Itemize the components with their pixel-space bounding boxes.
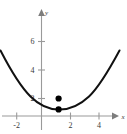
y-axis-label: y [44, 9, 49, 17]
x-tick-label-2: 2 [69, 121, 73, 130]
y-tick-label-4: 4 [31, 66, 35, 75]
x-tick-label-4: 4 [97, 121, 101, 130]
x-axis-label: x [120, 113, 125, 121]
y-tick-label-6: 6 [31, 37, 35, 46]
parabola-figure: -2 2 4 2 4 6 x y [0, 0, 127, 134]
data-point-upper [56, 95, 62, 101]
x-axis-arrow-icon [112, 113, 119, 120]
data-point-vertex [56, 106, 62, 112]
y-axis-arrow-icon [38, 9, 45, 16]
x-tick-label--2: -2 [13, 121, 20, 130]
